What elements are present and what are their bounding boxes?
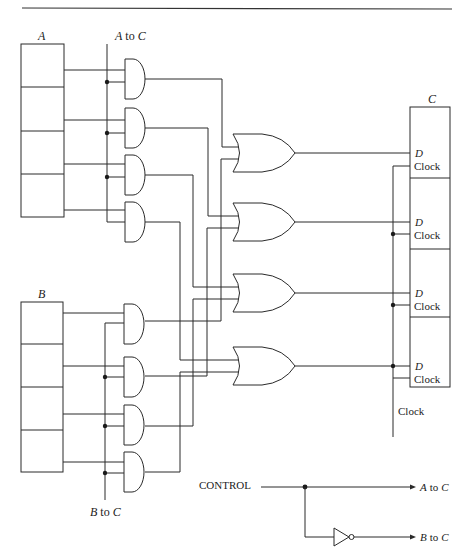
control-out-a-to-c: AtoC xyxy=(419,481,449,493)
circuit-diagram: A AtoC B BtoC xyxy=(0,0,471,560)
and-gate-b1 xyxy=(124,357,144,397)
bus-b-to-c-label: BtoC xyxy=(90,505,122,519)
bus-a-taps xyxy=(105,80,125,222)
top-rule xyxy=(22,8,452,9)
register-b-outputs xyxy=(63,313,124,462)
bus-b-taps xyxy=(103,323,124,475)
svg-text:Clock: Clock xyxy=(414,160,441,172)
and-gate-b3 xyxy=(124,452,144,492)
register-c-label: C xyxy=(428,92,437,106)
clock-bus-label: Clock xyxy=(398,405,425,417)
svg-text:Clock: Clock xyxy=(414,300,441,312)
or-gate-3 xyxy=(233,347,295,385)
and-gates-b xyxy=(124,304,144,492)
and-gate-a2 xyxy=(125,155,145,195)
flipflop-labels: D Clock D Clock D Clock D Clock xyxy=(414,147,441,385)
or-gate-1 xyxy=(233,203,295,241)
arrow-a-to-c-icon xyxy=(410,485,416,490)
inverter-gate xyxy=(334,528,349,546)
or-gate-0 xyxy=(233,134,295,172)
register-a-label: A xyxy=(37,29,46,43)
and-gates-a xyxy=(125,59,145,242)
svg-text:Clock: Clock xyxy=(414,373,441,385)
bus-a-to-c-label: AtoC xyxy=(114,29,147,43)
and-gate-b0 xyxy=(124,304,144,344)
and-gate-a3 xyxy=(125,202,145,242)
control-label: CONTROL xyxy=(199,479,251,491)
or-gate-2 xyxy=(233,274,295,312)
svg-text:Clock: Clock xyxy=(414,229,441,241)
clock-bus xyxy=(391,166,410,437)
and-gate-b2 xyxy=(124,405,144,445)
routing-wires xyxy=(145,79,240,472)
inverter-bubble xyxy=(349,535,354,540)
register-b-label: B xyxy=(38,287,46,301)
arrow-b-to-c-icon xyxy=(410,535,416,540)
control-out-b-to-c: BtoC xyxy=(420,531,449,543)
register-a xyxy=(21,44,64,217)
svg-text:D: D xyxy=(414,147,423,159)
and-gate-a0 xyxy=(125,59,145,99)
svg-text:D: D xyxy=(414,360,423,372)
register-a-outputs xyxy=(64,70,125,210)
svg-text:D: D xyxy=(414,287,423,299)
register-b xyxy=(21,302,63,472)
svg-text:D: D xyxy=(414,216,423,228)
or-gates xyxy=(233,134,295,385)
control-network xyxy=(261,485,416,547)
and-gate-a1 xyxy=(125,108,145,148)
